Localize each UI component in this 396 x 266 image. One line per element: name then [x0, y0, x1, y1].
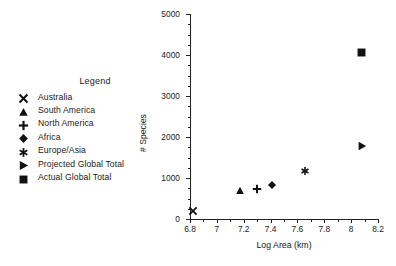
- y-tick-label: 3000: [161, 91, 180, 101]
- y-tick: 4000: [186, 55, 190, 56]
- y-tick: 3000: [186, 96, 190, 97]
- data-point-triangle-up: [233, 184, 247, 198]
- y-axis-title: # Species: [138, 114, 148, 152]
- legend-item-label: Australia: [38, 92, 72, 102]
- data-point-asterisk: [298, 164, 312, 178]
- plus-marker: [18, 117, 38, 130]
- legend-item: Africa: [18, 130, 158, 143]
- y-tick-label: 5000: [161, 9, 180, 19]
- x-tick-minor: [257, 219, 258, 222]
- x-tick: [324, 219, 325, 223]
- diamond-marker: [18, 130, 38, 143]
- x-tick: [271, 219, 272, 223]
- x-tick-label: 7: [215, 224, 220, 234]
- x-tick-label: 8.2: [372, 224, 384, 234]
- y-tick-minor: [188, 188, 191, 189]
- y-tick: 5000: [186, 14, 190, 15]
- legend-item: Projected Global Total: [18, 157, 158, 170]
- x-tick: [297, 219, 298, 223]
- x-tick-minor: [311, 219, 312, 222]
- x-tick: [351, 219, 352, 223]
- y-tick-label: 2000: [161, 132, 180, 142]
- square-marker: [18, 171, 38, 184]
- x-tick-label: 7.6: [292, 224, 304, 234]
- legend-title: Legend: [18, 76, 158, 86]
- data-point-plus: [250, 182, 264, 196]
- x-tick-label: 8: [349, 224, 354, 234]
- scatter-plot: 010002000300040005000 6.877.27.47.67.888…: [190, 14, 378, 220]
- y-tick-minor: [188, 24, 191, 25]
- legend-items: AustraliaSouth AmericaNorth AmericaAfric…: [18, 90, 158, 184]
- x-tick-label: 7.2: [238, 224, 250, 234]
- triangle-right-marker: [18, 157, 38, 170]
- y-tick-minor: [188, 86, 191, 87]
- legend-item-label: South America: [38, 105, 95, 115]
- x-tick-label: 7.8: [318, 224, 330, 234]
- legend-item-label: North America: [38, 118, 94, 128]
- y-tick-minor: [188, 147, 191, 148]
- asterisk-marker: [18, 144, 38, 157]
- y-tick-label: 1000: [161, 173, 180, 183]
- x-tick: [190, 219, 191, 223]
- data-point-square: [355, 46, 369, 60]
- x-tick-minor: [203, 219, 204, 222]
- legend-item: Australia: [18, 90, 158, 103]
- legend-item: Actual Global Total: [18, 170, 158, 183]
- y-tick: 1000: [186, 178, 190, 179]
- y-tick-minor: [188, 168, 191, 169]
- data-point-diamond: [265, 178, 279, 192]
- y-tick-label: 0: [175, 214, 180, 224]
- legend-item: North America: [18, 117, 158, 130]
- x-tick-minor: [284, 219, 285, 222]
- x-tick: [217, 219, 218, 223]
- y-tick-minor: [188, 76, 191, 77]
- legend-item-label: Europe/Asia: [38, 145, 86, 155]
- y-tick-minor: [188, 158, 191, 159]
- y-tick: 2000: [186, 137, 190, 138]
- legend: Legend AustraliaSouth AmericaNorth Ameri…: [18, 76, 158, 184]
- data-point-triangle-right: [355, 139, 369, 153]
- legend-item-label: Africa: [38, 132, 61, 142]
- y-tick-label: 4000: [161, 50, 180, 60]
- y-axis-line: [190, 14, 191, 220]
- data-point-cross: [186, 204, 200, 218]
- cross-marker: [18, 90, 38, 103]
- x-axis-title: Log Area (km): [256, 240, 311, 250]
- y-tick-minor: [188, 65, 191, 66]
- legend-item: South America: [18, 103, 158, 116]
- y-tick-minor: [188, 45, 191, 46]
- y-tick-minor: [188, 199, 191, 200]
- x-tick: [378, 219, 379, 223]
- y-tick-minor: [188, 35, 191, 36]
- x-tick-minor: [230, 219, 231, 222]
- x-tick-minor: [338, 219, 339, 222]
- y-tick-minor: [188, 117, 191, 118]
- x-tick-minor: [365, 219, 366, 222]
- legend-item: Europe/Asia: [18, 144, 158, 157]
- legend-item-label: Actual Global Total: [38, 172, 111, 182]
- x-tick-label: 7.4: [265, 224, 277, 234]
- triangle-up-marker: [18, 104, 38, 117]
- legend-item-label: Projected Global Total: [38, 159, 124, 169]
- y-tick-minor: [188, 106, 191, 107]
- y-tick-minor: [188, 127, 191, 128]
- x-tick: [244, 219, 245, 223]
- x-tick-label: 6.8: [184, 224, 196, 234]
